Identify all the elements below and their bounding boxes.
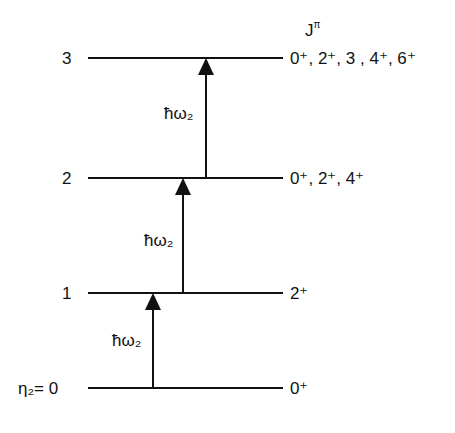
arrowhead-icon	[198, 58, 214, 75]
jpi-header: Jπ	[305, 20, 320, 39]
arrowhead-icon	[145, 293, 161, 310]
jpi-header-sup: π	[314, 19, 321, 30]
level-jpi-2: 0⁺, 2⁺, 4⁺	[290, 170, 364, 187]
arrowhead-icon	[175, 178, 191, 195]
level-jpi-0: 0⁺	[290, 380, 308, 397]
transition-label-2-3: ħω₂	[164, 105, 193, 122]
level-jpi-3: 0⁺, 2⁺, 3 , 4⁺, 6⁺	[290, 50, 416, 67]
jpi-header-symbol: J	[305, 21, 314, 40]
level-n-label-0: η₂= 0	[18, 380, 58, 397]
level-jpi-1: 2⁺	[290, 285, 308, 302]
level-n-label-1: 1	[62, 285, 71, 302]
level-n-label-2: 2	[62, 170, 71, 187]
transition-label-0-1: ħω₂	[112, 332, 141, 349]
transition-label-1-2: ħω₂	[144, 232, 173, 249]
level-n-label-3: 3	[62, 50, 71, 67]
